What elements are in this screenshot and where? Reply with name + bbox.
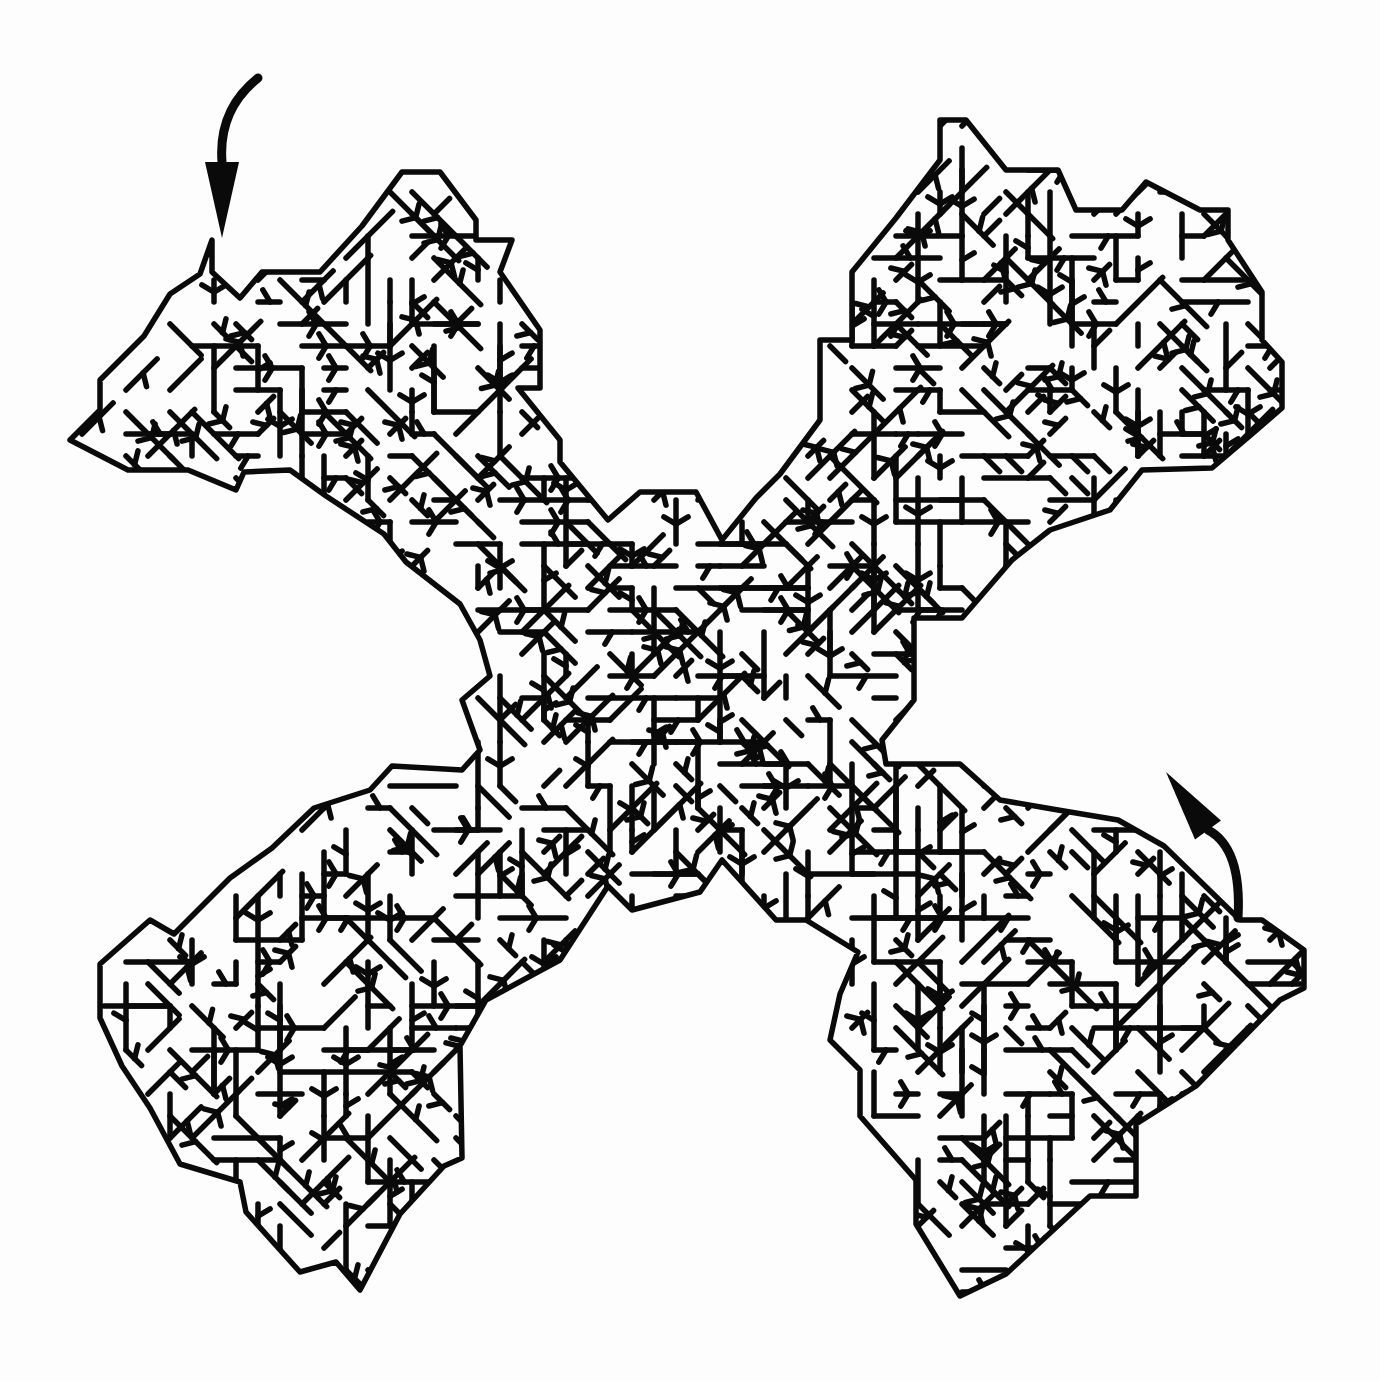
maze-wall-segment [1031, 259, 1045, 262]
maze-wall-segment [267, 403, 270, 417]
maze-wall-segment [776, 856, 790, 859]
maze-wall-segment [1116, 277, 1163, 324]
maze-wall-segment [465, 1041, 468, 1055]
maze-wall-segment [1059, 847, 1062, 861]
maze-wall-segment [965, 1199, 979, 1202]
maze-wall-segment [1018, 383, 1032, 386]
maze-wall-segment [416, 1106, 419, 1120]
maze-wall-segment [922, 644, 925, 658]
maze-wall-segment [803, 642, 817, 645]
maze-wall-segment [1103, 407, 1106, 421]
maze-wall-segment [297, 415, 300, 429]
maze-wall-segment [1248, 1006, 1279, 1037]
maze-wall-segment [773, 799, 776, 813]
maze-wall-segment [368, 1270, 415, 1317]
maze-wall-segment [1059, 1019, 1062, 1033]
maze-wall-segment [551, 368, 558, 380]
maze-wall-segment [253, 422, 267, 425]
maze-wall-segment [1191, 341, 1194, 355]
maze-wall-segment [1001, 289, 1015, 292]
maze-wall-segment [1059, 1067, 1062, 1081]
maze-wall-segment [1235, 407, 1238, 421]
maze-wall-segment [1138, 1116, 1185, 1163]
maze-wall-segment [349, 479, 363, 482]
maze-wall-segment [1155, 356, 1169, 359]
maze-wall-segment [385, 422, 399, 425]
maze-wall-segment [223, 1085, 226, 1099]
maze-wall-segment [979, 1292, 986, 1304]
maze-wall-segment [921, 297, 935, 300]
maze-wall-segment [390, 1094, 437, 1141]
maze-wall-segment [328, 804, 331, 818]
maze-wall-segment [182, 1076, 196, 1079]
maze-wall-segment [786, 720, 802, 736]
maze-wall-segment [710, 603, 724, 606]
maze-wall-segment [460, 270, 463, 284]
maze-wall-segment [592, 820, 595, 834]
maze-wall-segment [1072, 1050, 1088, 1066]
maze-wall-segment [138, 438, 152, 441]
maze-wall-segment [534, 878, 548, 881]
maze-wall-segment [1001, 945, 1004, 959]
maze-wall-segment [170, 324, 201, 355]
maze-wall-segment [275, 1104, 289, 1107]
maze-wall-segment [825, 679, 828, 693]
maze-wall-segment [204, 1109, 218, 1112]
maze-wall-segment [949, 1177, 952, 1191]
maze-wall-segment [1089, 1031, 1092, 1045]
maze-wall-segment [905, 649, 908, 663]
maze-wall-segment [635, 781, 649, 784]
maze-wall-segment [1045, 422, 1059, 425]
maze-wall-segment [591, 589, 605, 592]
maze-wall-segment [974, 339, 988, 342]
maze-wall-segment [764, 805, 811, 852]
maze-wall-segment [424, 218, 438, 221]
maze-wall-segment [240, 342, 243, 356]
maze-wall-segment [825, 901, 828, 915]
maze-wall-segment [1006, 1028, 1022, 1044]
maze-wall-segment [544, 770, 560, 786]
maze-wall-segment [666, 647, 680, 650]
maze-wall-segment [965, 1205, 979, 1208]
maze-wall-segment [1270, 321, 1317, 368]
maze-wall-segment [363, 879, 366, 893]
maze-wall-segment [891, 311, 905, 314]
maze-wall-segment [592, 716, 595, 730]
maze-wall-segment [891, 268, 905, 271]
maze-wall-segment [1001, 1192, 1015, 1195]
maze-wall-segment [539, 840, 553, 843]
maze-wall-segment [1213, 447, 1216, 461]
maze-wall-segment [627, 817, 641, 820]
maze-wall-segment [561, 725, 564, 739]
maze-wall-segment [840, 957, 852, 964]
maze-wall-segment [253, 993, 267, 996]
maze-wall-segment [275, 950, 289, 953]
maze-wall-segment [864, 746, 878, 749]
maze-wall-segment [839, 491, 842, 505]
maze-wall-segment [135, 1045, 138, 1059]
entrance-arrow-icon [205, 78, 258, 238]
maze-wall-segment [842, 449, 856, 452]
maze-wall-segment [1299, 378, 1306, 390]
maze-wall-segment [1236, 1057, 1248, 1064]
maze-wall-segment [1207, 941, 1221, 944]
maze-wall-segment [328, 1178, 331, 1192]
maze-wall-segment [372, 1150, 375, 1164]
maze-wall-segment [993, 1177, 996, 1191]
maze-wall-segment [1296, 342, 1299, 356]
maze-wall-segment [415, 1073, 429, 1076]
maze-wall-segment [380, 1065, 394, 1068]
maze-wall-segment [790, 826, 793, 840]
maze-wall-segment [451, 509, 465, 512]
maze-wall-segment [341, 444, 355, 447]
maze-wall-segment [856, 804, 859, 818]
maze-wall-segment [385, 1081, 399, 1084]
maze-wall-segment [333, 1177, 336, 1191]
maze-wall-segment [649, 730, 663, 733]
maze-wall-segment [539, 637, 542, 651]
maze-wall-segment [324, 997, 355, 1028]
maze-wall-segment [517, 333, 531, 336]
maze-interior-walls [82, 95, 1336, 1317]
maze-wall-segment [468, 1142, 482, 1145]
maze-wall-segment [833, 831, 847, 834]
